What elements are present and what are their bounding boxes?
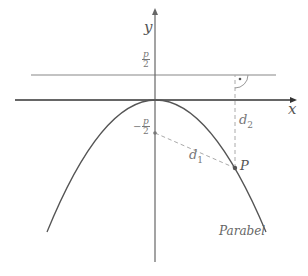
- x-axis-label: x: [288, 102, 296, 117]
- d1-subscript: 1: [197, 155, 203, 165]
- point-p-label: P: [240, 159, 249, 172]
- d2-subscript: 2: [247, 120, 253, 130]
- focus-value-sign: −: [133, 122, 141, 132]
- distance-d2-label: d2: [239, 113, 253, 130]
- directrix-value-den: 2: [142, 60, 150, 69]
- focus-point: [153, 131, 157, 135]
- focus-value-den: 2: [142, 127, 150, 136]
- right-angle-icon: [235, 75, 248, 88]
- y-axis-label: y: [144, 20, 152, 35]
- y-axis-arrow-icon: [152, 8, 158, 15]
- parabola-curve: [47, 100, 266, 232]
- curve-label: Parabel: [219, 225, 265, 237]
- point-p: [233, 166, 237, 170]
- focus-value-label: p 2: [142, 117, 150, 136]
- directrix-value-label: p 2: [142, 50, 150, 69]
- distance-d1-label: d1: [189, 148, 203, 165]
- right-angle-dot-icon: [239, 78, 242, 81]
